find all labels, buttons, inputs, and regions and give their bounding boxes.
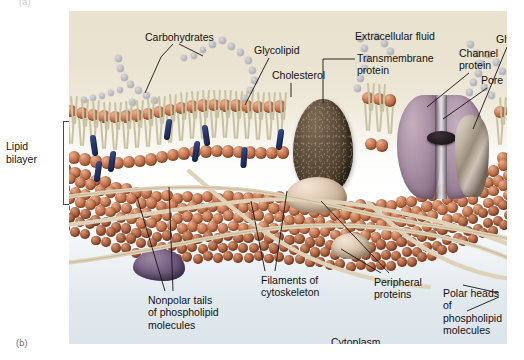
label-glycoprotein: Glycoprotein — [496, 33, 507, 45]
label-pore: Pore — [481, 74, 503, 86]
membrane-illustration-panel: Carbohydrates Glycolipid Cholesterol Ext… — [69, 11, 507, 344]
figure-part-a-label: (a) — [19, 0, 31, 7]
label-carbohydrates: Carbohydrates — [145, 31, 214, 43]
label-channel-protein: Channel protein — [459, 47, 498, 72]
figure-root: (a) (b) Lipid bilayer — [0, 0, 524, 360]
label-transmembrane-protein: Transmembrane protein — [357, 52, 434, 77]
figure-part-b-label: (b) — [16, 338, 28, 348]
label-extracellular-fluid: Extracellular fluid — [355, 30, 435, 42]
lipid-bilayer-label: Lipid bilayer — [6, 140, 62, 165]
label-cholesterol: Cholesterol — [272, 69, 325, 81]
label-cytoplasm: Cytoplasm — [331, 336, 381, 344]
label-peripheral-proteins: Peripheral proteins — [374, 276, 422, 301]
label-glycolipid: Glycolipid — [254, 44, 300, 56]
label-polar-heads: Polar heads of phospholipid molecules — [443, 287, 507, 337]
label-nonpolar-tails: Nonpolar tails of phospholipid molecules — [148, 294, 219, 331]
label-filaments-of-cytoskeleton: Filaments of cytoskeleton — [261, 274, 319, 299]
